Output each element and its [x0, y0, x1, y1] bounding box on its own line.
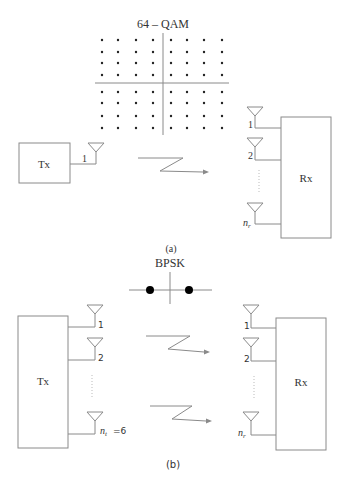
panel-a: 64 – QAM Tx 1 Rx 1 2 nr ( — [19, 17, 331, 255]
rx-feed-line-1-a — [255, 116, 281, 128]
rx-label-a: Rx — [300, 172, 313, 184]
qam-point — [186, 62, 188, 64]
qam-point — [117, 51, 119, 53]
qam-point — [117, 102, 119, 104]
qam-point — [221, 91, 223, 93]
qam-point — [186, 39, 188, 41]
rx-antenna-label-1-b: 1 — [244, 321, 250, 331]
qam-point — [221, 102, 223, 104]
qam-point — [170, 102, 172, 104]
arrowhead-icon — [206, 419, 212, 424]
caption-a: (a) — [165, 243, 176, 255]
qam-point — [101, 115, 103, 117]
qam-point — [152, 51, 154, 53]
qam-point — [221, 115, 223, 117]
rx-antenna-label-nr-b: nr — [238, 427, 246, 440]
qam-point — [152, 115, 154, 117]
qam-point — [203, 127, 205, 129]
rx-antenna-label-1-a: 1 — [248, 119, 253, 130]
qam-point — [135, 62, 137, 64]
antenna-icon — [87, 338, 103, 347]
antenna-icon — [243, 338, 259, 347]
qam-point — [152, 91, 154, 93]
tx-feed-line-2-b — [68, 347, 95, 360]
channel-arrow-b-1 — [146, 336, 204, 352]
qam-point — [186, 51, 188, 53]
antenna-icon — [243, 412, 259, 421]
antenna-icon — [247, 203, 263, 212]
rx-label-b: Rx — [295, 376, 308, 388]
qam-point — [221, 39, 223, 41]
qam-point — [135, 102, 137, 104]
qam-point — [135, 91, 137, 93]
tx-antenna-label-a: 1 — [82, 153, 87, 164]
qam-point — [221, 127, 223, 129]
qam-point — [203, 102, 205, 104]
qam-point — [221, 74, 223, 76]
arrowhead-icon — [203, 170, 209, 175]
qam-point — [135, 51, 137, 53]
qam-point — [186, 91, 188, 93]
antenna-icon — [87, 305, 103, 314]
tx-antenna-label-1-b: 1 — [98, 320, 104, 330]
panel-b: BPSK Tx 1 2 nt =6 Rx 1 — [18, 256, 326, 470]
arrowhead-icon — [204, 350, 210, 355]
mimo-diagram: 64 – QAM Tx 1 Rx 1 2 nr ( — [0, 0, 347, 481]
bpsk-point — [146, 286, 154, 294]
bpsk-title: BPSK — [155, 256, 185, 270]
qam-point — [101, 39, 103, 41]
qam-point — [170, 62, 172, 64]
tx-label-b: Tx — [37, 375, 50, 387]
rx-feed-line-2-a — [255, 147, 281, 160]
qam-point — [117, 39, 119, 41]
rx-antenna-label-2-b: 2 — [244, 354, 250, 364]
antenna-icon — [87, 412, 103, 421]
qam-point — [203, 91, 205, 93]
antenna-icon — [88, 143, 104, 152]
qam-point — [203, 51, 205, 53]
rx-antenna-label-nr-a: nr — [243, 217, 251, 230]
qam-point — [101, 91, 103, 93]
qam-point — [101, 127, 103, 129]
channel-arrow-a — [138, 158, 203, 172]
qam-constellation-points — [101, 39, 223, 129]
qam-point — [101, 62, 103, 64]
tx-count-label: =6 — [113, 426, 127, 436]
qam-point — [221, 62, 223, 64]
qam-point — [170, 39, 172, 41]
qam-point — [170, 127, 172, 129]
qam-point — [186, 115, 188, 117]
rx-feed-line-n-a — [255, 212, 281, 224]
qam-point — [203, 74, 205, 76]
qam-point — [117, 62, 119, 64]
antenna-icon — [247, 107, 263, 116]
qam-point — [117, 115, 119, 117]
qam-point — [101, 102, 103, 104]
qam-point — [101, 51, 103, 53]
channel-arrow-b-2 — [150, 406, 206, 421]
qam-title: 64 – QAM — [137, 17, 189, 31]
qam-point — [152, 127, 154, 129]
qam-point — [135, 127, 137, 129]
rx-feed-line-1-b — [251, 314, 276, 328]
qam-point — [135, 74, 137, 76]
qam-point — [170, 115, 172, 117]
rx-feed-line-n-b — [251, 421, 276, 435]
qam-point — [203, 62, 205, 64]
antenna-icon — [247, 138, 263, 147]
qam-point — [221, 51, 223, 53]
rx-antenna-label-2-a: 2 — [248, 150, 253, 161]
qam-point — [101, 74, 103, 76]
qam-point — [152, 102, 154, 104]
qam-point — [170, 51, 172, 53]
qam-point — [186, 74, 188, 76]
qam-point — [170, 74, 172, 76]
qam-point — [186, 102, 188, 104]
qam-point — [117, 74, 119, 76]
tx-label-a: Tx — [38, 158, 51, 170]
tx-feed-line-n-b — [68, 421, 95, 434]
antenna-icon — [243, 305, 259, 314]
qam-point — [117, 91, 119, 93]
tx-antenna-label-2-b: 2 — [98, 353, 104, 363]
qam-point — [152, 39, 154, 41]
